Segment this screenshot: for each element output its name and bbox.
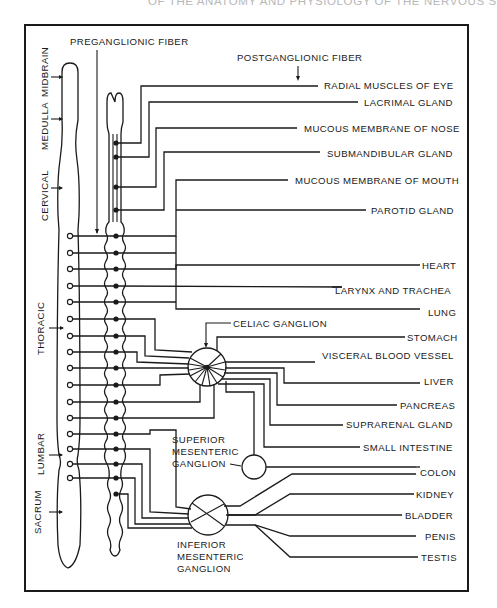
region-sacrum: SACRUM [32, 490, 43, 534]
target-parotid-gland: PAROTID GLAND [371, 205, 454, 216]
target-larynx-and-trachea: LARYNX AND TRACHEA [335, 285, 451, 296]
thoracic-organ-fibers [116, 236, 420, 309]
target-stomach: STOMACH [407, 332, 458, 343]
target-lung: LUNG [428, 307, 456, 318]
target-bladder: BLADDER [405, 510, 453, 521]
target-suprarenal-gland: SUPRARENAL GLAND [346, 419, 453, 430]
head-neck-fibers [116, 86, 366, 236]
target-testis: TESTIS [421, 552, 457, 563]
inferior-mesenteric-label-1: INFERIOR [177, 539, 226, 550]
inferior-mesenteric-ganglion [188, 495, 228, 535]
target-penis: PENIS [425, 531, 456, 542]
target-visceral-blood-vessel: VISCERAL BLOOD VESSEL [322, 350, 454, 361]
inferior-mesenteric-label-3: GANGLION [177, 563, 231, 574]
cervical-ganglion-dots [113, 140, 118, 212]
target-mucous-membrane-of-nose: MUCOUS MEMBRANE OF NOSE [304, 123, 460, 134]
region-medulla: MEDULLA [39, 102, 50, 150]
target-pancreas: PANCREAS [400, 400, 455, 411]
inferior-outputs [224, 474, 418, 557]
celiac-ganglion [188, 348, 226, 386]
region-midbrain: MIDBRAIN [39, 47, 50, 97]
preganglionic-fiber-label: PREGANGLIONIC FIBER [70, 36, 188, 47]
superior-mesenteric-ganglion [242, 455, 266, 479]
target-lacrimal-gland: LACRIMAL GLAND [364, 97, 453, 108]
target-colon: COLON [420, 467, 456, 478]
superior-mesenteric-label-3: GANGLION [172, 458, 226, 469]
spinal-cord [57, 63, 81, 568]
target-small-intestine: SMALL INTESTINE [363, 442, 453, 453]
inferior-mesenteric-label-2: MESENTERIC [177, 551, 244, 562]
target-heart: HEART [422, 260, 456, 271]
superior-mesenteric-label-2: MESENTERIC [172, 446, 239, 457]
preganglionic-segments [67, 233, 118, 496]
celiac-ganglion-label: CELIAC GANGLION [233, 318, 327, 329]
region-cervical: CERVICAL [39, 170, 50, 221]
target-submandibular-gland: SUBMANDIBULAR GLAND [327, 148, 453, 159]
target-kidney: KIDNEY [416, 489, 454, 500]
postganglionic-fiber-label: POSTGANGLIONIC FIBER [237, 52, 362, 63]
superior-mesenteric-label-1: SUPERIOR [172, 434, 225, 445]
region-lumbar: LUMBAR [35, 433, 46, 475]
target-liver: LIVER [424, 376, 454, 387]
target-radial-muscles-of-eye: RADIAL MUSCLES OF EYE [324, 80, 454, 91]
diagram-frame [25, 25, 468, 591]
target-mucous-membrane-of-mouth: MUCOUS MEMBRANE OF MOUTH [295, 175, 459, 186]
sympathetic-chain [105, 93, 126, 556]
region-thoracic: THORACIC [35, 302, 46, 355]
